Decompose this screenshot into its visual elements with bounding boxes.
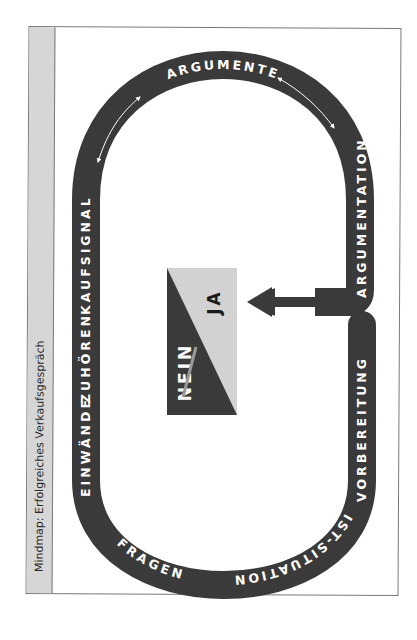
sales-loop-diagram: KAUFSIGNALE ZUHÖREN ARGUMENTE ARGUMENTAT… xyxy=(0,0,417,640)
ja-label: JA xyxy=(204,289,224,315)
label-argumentation: ARGUMENTATION xyxy=(354,137,369,298)
label-einwaende: EINWÄNDE xyxy=(78,397,93,497)
label-zuhoeren: ZUHÖREN xyxy=(78,313,93,403)
label-vorbereitung: VORBEREITUNG xyxy=(354,356,369,502)
decision-box: JA NEIN xyxy=(167,268,237,415)
